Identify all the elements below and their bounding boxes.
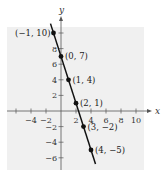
y-tick-label: 2	[52, 91, 57, 100]
data-point	[81, 124, 86, 129]
x-axis-arrow-icon	[147, 109, 152, 113]
chart: xy −4−22468108642−2−4−6 (−1, 10)(0, 7)(1…	[0, 0, 165, 176]
data-point	[59, 54, 64, 59]
data-point	[51, 31, 56, 36]
x-tick-label: 10	[131, 116, 141, 125]
point-label: (−1, 10)	[15, 28, 50, 38]
x-tick-label: −4	[25, 116, 37, 125]
x-tick-label: 8	[118, 116, 123, 125]
data-point	[74, 101, 79, 106]
point-label: (1, 4)	[73, 75, 96, 85]
x-tick-label: 2	[73, 116, 78, 125]
data-point	[66, 77, 71, 82]
data-point	[89, 148, 94, 153]
y-axis-arrow-icon	[59, 16, 63, 21]
y-tick-label: 8	[52, 45, 57, 54]
x-axis-label: x	[155, 106, 160, 116]
point-label: (4, −5)	[95, 145, 125, 155]
point-label: (0, 7)	[65, 51, 88, 61]
point-label: (2, 1)	[80, 98, 103, 108]
y-tick-label: −2	[45, 123, 57, 132]
point-label: (3, −2)	[88, 122, 118, 132]
y-tick-label: −6	[45, 154, 57, 163]
y-tick-label: 6	[52, 60, 57, 69]
y-tick-label: −4	[45, 138, 57, 147]
y-tick-label: 4	[52, 76, 57, 85]
y-axis-label: y	[58, 5, 65, 15]
